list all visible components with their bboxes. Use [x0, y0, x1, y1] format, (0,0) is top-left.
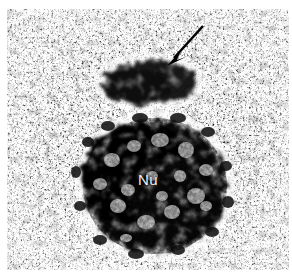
- plate-margin-left: [0, 0, 7, 278]
- nucleolus-structure-layer: [0, 0, 292, 278]
- micrograph-plate: Nu: [0, 0, 292, 278]
- plate-margin-right: [289, 0, 292, 278]
- plate-margin-top: [0, 0, 292, 9]
- electron-micrograph-figure: Nu: [0, 0, 292, 278]
- plate-margin-bottom: [0, 270, 292, 278]
- arrow-annotation: [158, 16, 214, 76]
- arrow-icon: [158, 16, 214, 76]
